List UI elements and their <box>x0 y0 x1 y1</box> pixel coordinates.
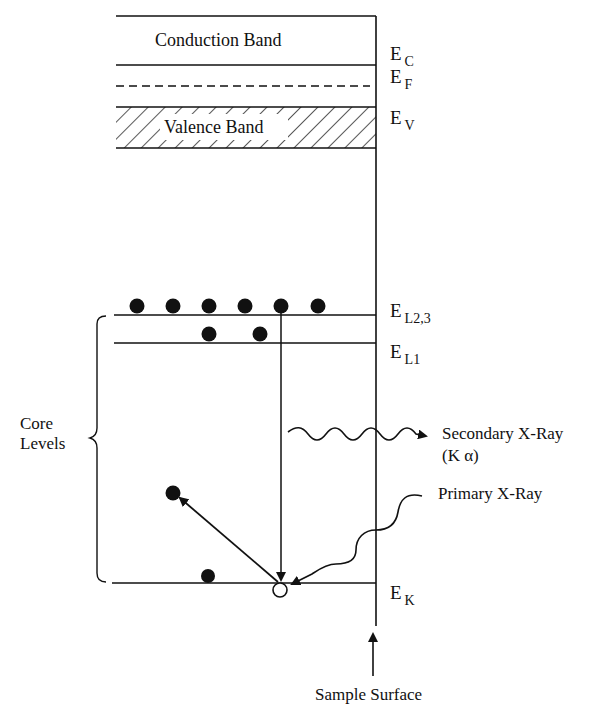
secondary-xray-wave <box>288 428 426 440</box>
el1-electrons <box>202 327 268 342</box>
label-el23: EL2,3 <box>390 300 431 324</box>
label-ec: EC <box>390 43 414 67</box>
energy-diagram-canvas <box>0 0 614 717</box>
sample-surface-label: Sample Surface <box>315 685 422 705</box>
ek-electron <box>201 569 215 583</box>
core-levels-brace <box>90 316 106 582</box>
core-levels-label-line2: Levels <box>20 434 65 454</box>
label-el1: EL1 <box>390 341 420 365</box>
label-ek: EK <box>390 582 415 606</box>
primary-xray-label: Primary X-Ray <box>438 484 542 504</box>
primary-xray-wave <box>292 495 422 584</box>
secondary-xray-kalpha-label: (K α) <box>442 446 479 466</box>
core-levels-label-line1: Core <box>20 414 53 434</box>
label-ev: EV <box>390 107 415 131</box>
secondary-xray-label: Secondary X-Ray <box>442 424 563 444</box>
ek-hole <box>273 583 287 597</box>
photoelectron-arrow <box>180 498 278 582</box>
ejected-electron <box>166 486 181 501</box>
label-ef: EF <box>390 66 412 90</box>
conduction-band-label: Conduction Band <box>155 30 282 50</box>
valence-band-label: Valence Band <box>164 117 263 137</box>
el23-electrons <box>130 299 326 314</box>
